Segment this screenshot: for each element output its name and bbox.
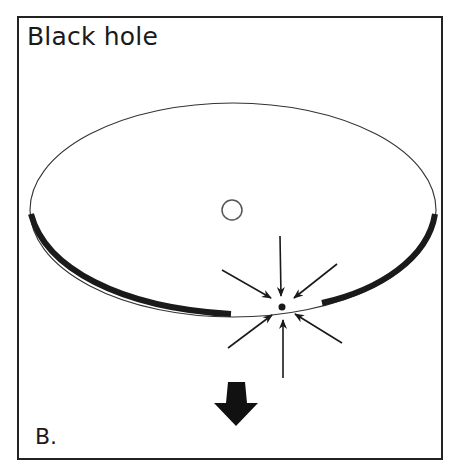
disk-rim-right [322, 214, 435, 303]
accretion-disk [30, 103, 436, 317]
arrow-top-icon [280, 236, 281, 296]
diagram-canvas [0, 0, 459, 472]
arrow-upper-left-icon [222, 270, 271, 298]
center-circle-icon [222, 200, 242, 220]
collapse-point-icon [279, 304, 286, 311]
arrow-lower-right-icon [295, 314, 342, 343]
arrow-lower-left-icon [228, 315, 272, 348]
disk-rim-left [31, 214, 231, 314]
arrow-upper-right-icon [294, 264, 337, 298]
panel-label: B. [35, 424, 57, 449]
down-arrow-icon [214, 382, 258, 426]
